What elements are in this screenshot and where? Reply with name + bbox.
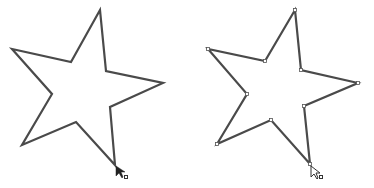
- anchor-point[interactable]: [309, 163, 312, 166]
- right-star-path[interactable]: [208, 10, 358, 164]
- left-star-path[interactable]: [12, 10, 163, 165]
- anchor-point[interactable]: [207, 48, 210, 51]
- direct-selection-cursor-icon: [116, 166, 128, 179]
- anchor-point[interactable]: [216, 143, 219, 146]
- drawing-canvas[interactable]: [0, 0, 374, 188]
- anchor-point[interactable]: [357, 82, 360, 85]
- anchor-point[interactable]: [270, 119, 273, 122]
- anchor-point[interactable]: [264, 60, 267, 63]
- anchor-point[interactable]: [303, 105, 306, 108]
- direct-selection-hollow-cursor-icon: [311, 166, 323, 179]
- anchor-point[interactable]: [246, 93, 249, 96]
- anchor-point[interactable]: [300, 69, 303, 72]
- anchor-point[interactable]: [294, 9, 297, 12]
